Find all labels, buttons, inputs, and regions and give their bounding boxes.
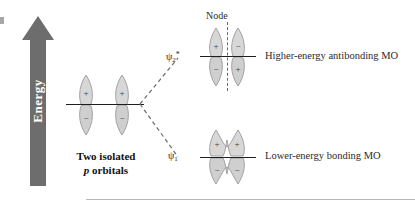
bonding-level-line xyxy=(200,157,256,158)
antibonding-mo-orbitals: + − − + xyxy=(205,26,251,88)
psi-star: * xyxy=(176,50,180,59)
antibonding-level-line xyxy=(200,56,256,57)
psi-label-antibonding: ψ2* xyxy=(166,50,180,64)
bonding-mo-label: Lower-energy bonding MO xyxy=(265,150,381,161)
bottom-divider xyxy=(86,199,415,200)
antibonding-mo-label: Higher-energy antibonding MO xyxy=(265,50,398,61)
figure-canvas: Energy + + − − Two isolated p orbitals xyxy=(0,0,415,208)
node-label: Node xyxy=(206,10,228,21)
psi-subscript: 1 xyxy=(174,155,178,163)
psi-label-bonding: ψ1 xyxy=(168,150,178,163)
